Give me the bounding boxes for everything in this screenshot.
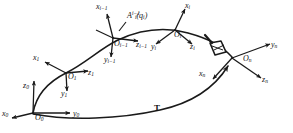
axis-label-zn: zn [262,76,268,85]
axis-label-x1: x1 [33,54,39,63]
origin-label-o1: O1 [68,73,77,82]
axis-label-xi-1: xi−1 [96,3,108,12]
origin-label-o0: O0 [35,114,44,123]
axis-label-xi: xi [185,2,190,11]
transform-label-A: Ai−1i(qi) [127,11,147,21]
axis-label-zi-1: zi−1 [136,41,147,50]
axis-label-y0: y0 [73,110,79,119]
frame-0-axes [12,81,70,118]
end-effector-gripper [205,35,226,55]
axis-label-yi: yi [151,43,156,52]
axis-label-x0: x0 [2,110,8,119]
axis-label-yn: yn [271,41,277,50]
axis-label-yi-1: yi−1 [104,56,116,65]
origin-label-oi-1: Oi−1 [114,40,128,49]
origin-label-on: On [243,55,252,64]
origin-label-oi: Oi [174,31,181,40]
axis-label-xn: xn [199,70,205,79]
axis-label-zi: zi [190,43,195,52]
axis-label-z0: z0 [23,82,29,91]
transform-label-T: T [154,104,160,113]
axis-label-z1: z1 [88,69,94,78]
transform-A-leader [119,22,126,31]
frame-1-axes [45,62,88,91]
kinematic-chain-figure: x0 y0 z0 O0 x1 y1 z1 O1 xi−1 yi−1 zi−1 O… [0,0,293,133]
axis-label-y1: y1 [61,90,67,99]
